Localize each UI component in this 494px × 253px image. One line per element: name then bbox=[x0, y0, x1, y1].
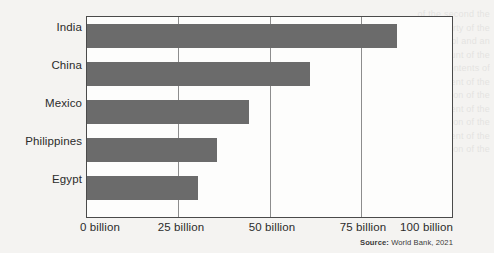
tick-label-75: 75 billion bbox=[340, 221, 386, 233]
category-label-mexico: Mexico bbox=[4, 97, 82, 109]
value-axis: 0 billion 25 billion 50 billion 75 billi… bbox=[86, 221, 453, 237]
source-note: Source: World Bank, 2021 bbox=[360, 238, 453, 247]
bar-egypt bbox=[87, 176, 198, 200]
source-label: Source: bbox=[360, 238, 389, 247]
bar-india bbox=[87, 24, 397, 48]
bar-philippines bbox=[87, 138, 217, 162]
category-label-china: China bbox=[4, 59, 82, 71]
tick-label-25: 25 billion bbox=[158, 221, 204, 233]
category-axis: India China Mexico Philippines Egypt bbox=[0, 16, 82, 218]
bar-series bbox=[87, 17, 452, 217]
bar-china bbox=[87, 62, 310, 86]
tick-label-0: 0 billion bbox=[80, 221, 120, 233]
source-text: World Bank, 2021 bbox=[389, 238, 453, 247]
horizontal-bar-chart: India China Mexico Philippines Egypt 0 b… bbox=[0, 0, 494, 253]
category-label-philippines: Philippines bbox=[4, 135, 82, 147]
plot-area bbox=[86, 16, 453, 218]
tick-label-50: 50 billion bbox=[249, 221, 295, 233]
tick-label-100: 100 billion bbox=[400, 221, 453, 233]
category-label-india: India bbox=[4, 21, 82, 33]
bar-mexico bbox=[87, 100, 249, 124]
category-label-egypt: Egypt bbox=[4, 173, 82, 185]
